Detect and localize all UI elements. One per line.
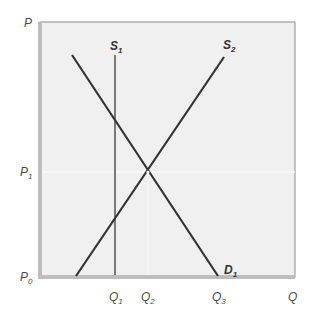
q1-tick-label: Q1 bbox=[109, 290, 123, 306]
equilibrium-point bbox=[146, 170, 149, 173]
plot-area bbox=[40, 22, 295, 277]
p1-tick-label: P1 bbox=[20, 165, 32, 181]
x-axis-label: Q bbox=[288, 290, 297, 304]
q2-tick-label: Q2 bbox=[141, 290, 155, 306]
p0-tick-label: P0 bbox=[20, 270, 33, 286]
supply-demand-diagram: S1 S2 D1 P Q P1 P0 Q1 Q2 Q3 bbox=[0, 0, 318, 318]
q3-tick-label: Q3 bbox=[212, 290, 226, 306]
y-axis-label: P bbox=[24, 16, 32, 30]
